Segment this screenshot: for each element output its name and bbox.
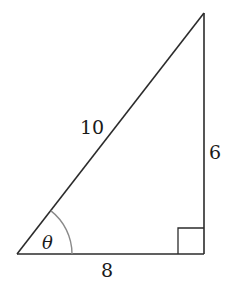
right-triangle-diagram: 10 6 8 θ — [0, 0, 233, 285]
right-angle-marker — [178, 228, 204, 254]
hypotenuse-label: 10 — [80, 116, 104, 138]
horizontal-leg-label: 8 — [101, 259, 113, 281]
angle-theta-label: θ — [42, 232, 53, 253]
vertical-leg-label: 6 — [209, 141, 221, 163]
angle-arc — [51, 211, 72, 254]
hypotenuse-line — [17, 13, 204, 254]
